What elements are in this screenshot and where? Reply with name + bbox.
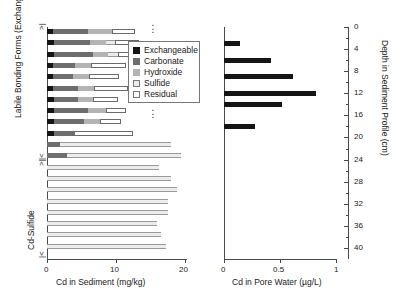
depth-tick-24 bbox=[344, 160, 349, 161]
depth-tick-36 bbox=[344, 226, 349, 227]
depth-ticklabel: 16 bbox=[354, 110, 363, 119]
depth-ticklabel: 8 bbox=[354, 66, 358, 75]
porewater-x-tick-1 bbox=[336, 259, 337, 263]
porewater-bar bbox=[224, 124, 255, 129]
porewater-x-ticklabel-0-5: 0.5 bbox=[273, 265, 284, 274]
depth-minor-tick bbox=[346, 60, 349, 61]
depth-tick-16 bbox=[344, 115, 349, 116]
depth-tick-20 bbox=[344, 137, 349, 138]
depth-ticklabel: 36 bbox=[354, 221, 363, 230]
depth-tick-12 bbox=[344, 93, 349, 94]
depth-minor-tick bbox=[346, 237, 349, 238]
depth-axis-title: Depth in Sediment Profile (cm) bbox=[380, 40, 390, 156]
depth-ticklabel: 40 bbox=[354, 243, 363, 252]
depth-tick-40 bbox=[344, 248, 349, 249]
depth-minor-tick bbox=[346, 193, 349, 194]
depth-ticklabel: 24 bbox=[354, 155, 363, 164]
depth-minor-tick bbox=[346, 82, 349, 83]
depth-tick-28 bbox=[344, 182, 349, 183]
porewater-bar bbox=[224, 102, 282, 107]
depth-ticklabel: 4 bbox=[354, 44, 358, 53]
pore-water-panel: 0 0.5 1 Cd in Pore Water (µg/L) 04812162… bbox=[0, 0, 401, 298]
depth-axis-spine bbox=[348, 27, 349, 259]
depth-tick-4 bbox=[344, 49, 349, 50]
depth-ticklabel: 32 bbox=[354, 199, 363, 208]
porewater-x-ticklabel-0: 0 bbox=[221, 265, 225, 274]
porewater-bar bbox=[224, 58, 271, 63]
porewater-x-axis-title: Cd in Pore Water (µg/L) bbox=[232, 277, 322, 287]
depth-ticklabel: 28 bbox=[354, 177, 363, 186]
depth-minor-tick bbox=[346, 104, 349, 105]
porewater-bar bbox=[224, 91, 316, 96]
depth-ticklabel: 12 bbox=[354, 88, 363, 97]
depth-tick-0 bbox=[344, 27, 349, 28]
depth-minor-tick bbox=[346, 149, 349, 150]
porewater-x-tick-0-5 bbox=[280, 259, 281, 263]
depth-ticklabel: 0 bbox=[354, 22, 358, 31]
depth-minor-tick bbox=[346, 171, 349, 172]
depth-tick-32 bbox=[344, 204, 349, 205]
depth-minor-tick bbox=[346, 215, 349, 216]
depth-minor-tick bbox=[346, 38, 349, 39]
depth-tick-8 bbox=[344, 71, 349, 72]
porewater-x-tick-0 bbox=[224, 259, 225, 263]
figure-root: Labile Bonding Forms (Exchangeable, Carb… bbox=[0, 0, 401, 298]
porewater-bar bbox=[224, 74, 293, 79]
depth-ticklabel: 20 bbox=[354, 132, 363, 141]
porewater-bar bbox=[224, 41, 240, 46]
porewater-x-ticklabel-1: 1 bbox=[334, 265, 338, 274]
depth-minor-tick bbox=[346, 126, 349, 127]
